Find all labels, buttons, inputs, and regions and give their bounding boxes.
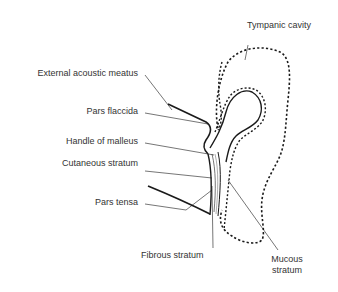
label-tympanic-cavity: Tympanic cavity	[247, 20, 311, 31]
label-pars-tensa: Pars tensa	[60, 197, 138, 208]
leader-tympanic-cavity	[245, 45, 248, 60]
pars-flaccida-wall	[168, 104, 211, 154]
label-handle-of-malleus: Handle of malleus	[30, 136, 138, 147]
tympanic-cavity-outline	[216, 48, 289, 243]
label-fibrous-stratum: Fibrous stratum	[141, 250, 204, 261]
label-pars-flaccida: Pars flaccida	[40, 106, 138, 117]
leader-fibrous-stratum	[212, 186, 213, 248]
pars-tensa-wall	[148, 186, 210, 214]
label-cutaneous-stratum: Cutaneous stratum	[30, 158, 138, 169]
label-external-acoustic-meatus: External acoustic meatus	[10, 68, 138, 79]
leader-lines	[145, 45, 278, 250]
tympanic-membrane-strata-4	[218, 152, 220, 216]
label-mucous-stratum: Mucous stratum	[262, 254, 312, 276]
malleus-mucosa-outline	[215, 88, 265, 230]
leader-cutaneous-stratum	[145, 171, 212, 178]
tympanic-membrane-strata-1	[208, 154, 211, 215]
label-mucous-stratum-line2: stratum	[262, 265, 312, 276]
leader-mucous-stratum	[228, 180, 278, 250]
leader-external-acoustic-meatus	[145, 75, 172, 110]
label-mucous-stratum-line1: Mucous	[262, 254, 312, 265]
diagram-canvas: Tympanic cavity External acoustic meatus…	[0, 0, 338, 292]
